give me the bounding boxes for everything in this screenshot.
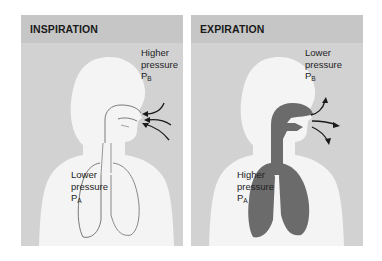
inspiration-panel: INSPIRATION Higher pressure PB Lower pre — [21, 15, 183, 246]
label-line: pressure — [141, 59, 178, 71]
outside-pressure-label: Lower pressure PB — [305, 47, 342, 85]
label-line: pressure — [71, 181, 108, 193]
pressure-symbol: PB — [141, 70, 178, 85]
outside-pressure-label: Higher pressure PB — [141, 47, 178, 85]
label-line: pressure — [305, 59, 342, 71]
label-line: Higher — [237, 169, 274, 181]
label-line: Lower — [305, 47, 342, 59]
label-line: Higher — [141, 47, 178, 59]
pressure-symbol: PB — [305, 70, 342, 85]
alveolar-pressure-label: Higher pressure PA — [237, 169, 274, 207]
expiration-panel: EXPIRATION Lower pressure PB Higher pres… — [191, 15, 363, 246]
label-line: pressure — [237, 181, 274, 193]
alveolar-pressure-label: Lower pressure PA — [71, 169, 108, 207]
pressure-symbol: PA — [71, 192, 108, 207]
pressure-symbol: PA — [237, 192, 274, 207]
label-line: Lower — [71, 169, 108, 181]
